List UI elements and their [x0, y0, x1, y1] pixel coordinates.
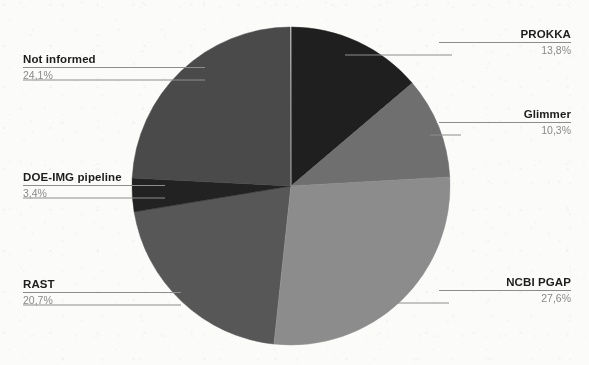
callout-not-informed-label: Not informed — [23, 53, 205, 66]
callout-rast: RAST 20,7% — [23, 278, 181, 307]
callout-prokka-percent: 13,8% — [439, 44, 571, 57]
callout-ncbi-pgap-percent: 27,6% — [439, 292, 571, 305]
callout-not-informed: Not informed 24,1% — [23, 53, 205, 82]
callout-doe-img-pipeline-rule — [23, 185, 165, 186]
callout-prokka: PROKKA 13,8% — [439, 28, 571, 57]
pie-slice-not-informed[interactable] — [132, 27, 291, 186]
callout-doe-img-pipeline: DOE-IMG pipeline 3,4% — [23, 171, 165, 200]
callout-doe-img-pipeline-label: DOE-IMG pipeline — [23, 171, 165, 184]
callout-prokka-label: PROKKA — [439, 28, 571, 41]
callout-glimmer-percent: 10,3% — [439, 124, 571, 137]
callout-rast-rule — [23, 292, 181, 293]
callout-not-informed-percent: 24,1% — [23, 69, 205, 82]
callout-not-informed-rule — [23, 67, 205, 68]
pie-slice-ncbi-pgap[interactable] — [274, 177, 450, 345]
callout-glimmer: Glimmer 10,3% — [439, 108, 571, 137]
callout-ncbi-pgap-rule — [439, 290, 571, 291]
callout-ncbi-pgap-label: NCBI PGAP — [439, 276, 571, 289]
callout-ncbi-pgap: NCBI PGAP 27,6% — [439, 276, 571, 305]
pie-chart-page: PROKKA 13,8% Glimmer 10,3% NCBI PGAP 27,… — [0, 0, 589, 365]
callout-rast-label: RAST — [23, 278, 181, 291]
callout-glimmer-rule — [439, 122, 571, 123]
callout-rast-percent: 20,7% — [23, 294, 181, 307]
pie-slice-rast[interactable] — [134, 186, 291, 344]
callout-doe-img-pipeline-percent: 3,4% — [23, 187, 165, 200]
callout-prokka-rule — [439, 42, 571, 43]
callout-glimmer-label: Glimmer — [439, 108, 571, 121]
